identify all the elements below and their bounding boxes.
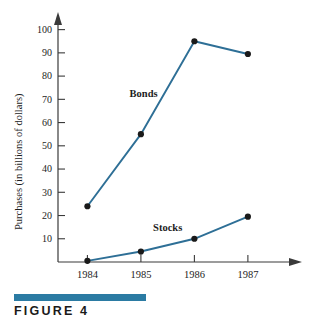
figure-caption-label: FIGURE 4 [14,304,89,318]
y-tick-label: 80 [42,70,52,81]
data-point-stocks-1984 [84,258,90,264]
data-point-bonds-1986 [191,38,197,44]
caption-rule [14,294,146,301]
figure-container: 102030405060708090100 1984198519861987 P… [0,0,319,328]
data-point-bonds-1987 [245,51,251,57]
line-chart: 102030405060708090100 1984198519861987 P… [0,0,319,300]
series-annotation-bonds: Bonds [130,88,158,99]
data-point-stocks-1987 [245,214,251,220]
x-tick-label: 1984 [77,269,99,280]
data-point-bonds-1984 [84,203,90,209]
y-tick-label: 70 [42,94,52,105]
data-point-stocks-1985 [138,248,144,254]
y-axis-title: Purchases (in billions of dollars) [13,93,25,230]
y-axis-ticks: 102030405060708090100 [37,24,65,244]
x-tick-label: 1987 [237,269,258,280]
data-point-bonds-1985 [138,131,144,137]
y-tick-label: 10 [42,233,52,244]
y-tick-label: 90 [42,47,52,58]
figure-caption-block: FIGURE 4 [0,292,319,328]
x-tick-label: 1985 [130,269,151,280]
y-tick-label: 50 [42,140,52,151]
x-tick-label: 1986 [184,269,205,280]
y-tick-label: 40 [42,163,52,174]
data-point-stocks-1986 [191,236,197,242]
y-tick-label: 20 [42,210,52,221]
series-annotation-stocks: Stocks [153,222,182,233]
y-tick-label: 100 [37,24,52,35]
series-line-bonds [87,41,247,206]
y-tick-label: 60 [42,117,52,128]
y-tick-label: 30 [42,187,52,198]
